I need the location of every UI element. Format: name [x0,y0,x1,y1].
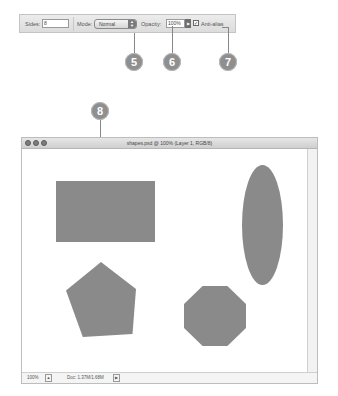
status-bar: 100% ▲ Doc: 1.37M/1.68M ▶ [22,372,317,383]
antialias-label: Anti-alias [201,21,224,27]
separator [73,17,74,31]
minimize-button[interactable] [33,140,39,146]
close-button[interactable] [25,140,31,146]
mode-value: Normal [99,21,115,27]
antialias-checkbox[interactable]: ✓ [193,20,199,26]
sides-input[interactable]: 8 [42,19,69,28]
callout-badge-5: 5 [125,53,143,71]
updown-arrows-icon: ▲▼ [128,20,136,28]
octagon-shape[interactable] [184,286,246,346]
window-title: shapes.psd @ 100% (Layer 1, RGB/8) [127,140,212,146]
opacity-slider-arrow-icon[interactable]: ▶ [185,19,191,28]
document-window: shapes.psd @ 100% (Layer 1, RGB/8) 100% … [21,137,318,384]
status-toggle-icon[interactable]: ▲ [45,374,52,382]
opacity-label: Opacity: [141,21,161,27]
document-canvas[interactable] [22,149,308,372]
rectangle-shape[interactable] [56,181,155,242]
callout-badge-6: 6 [163,53,181,71]
status-menu-arrow-icon[interactable]: ▶ [113,374,120,382]
shape-options-bar: Sides: 8 Mode: Normal ▲▼ Opacity: 100% ▶… [19,14,236,33]
callout-leader-6 [172,26,173,56]
sides-label: Sides: [25,21,40,27]
zoom-button[interactable] [41,140,47,146]
callout-badge-7: 7 [219,53,237,71]
vertical-scrollbar[interactable] [307,149,317,372]
ellipse-shape[interactable] [242,165,283,285]
mode-label: Mode: [77,21,92,27]
callout-badge-8: 8 [91,102,109,120]
opacity-input[interactable]: 100% [166,19,185,28]
pentagon-shape[interactable] [66,262,136,337]
window-titlebar[interactable]: shapes.psd @ 100% (Layer 1, RGB/8) [22,138,317,149]
callout-leader-7 [228,27,229,56]
document-size: Doc: 1.37M/1.68M [67,375,104,380]
zoom-level[interactable]: 100% [27,375,39,380]
mode-select[interactable]: Normal ▲▼ [94,19,137,29]
